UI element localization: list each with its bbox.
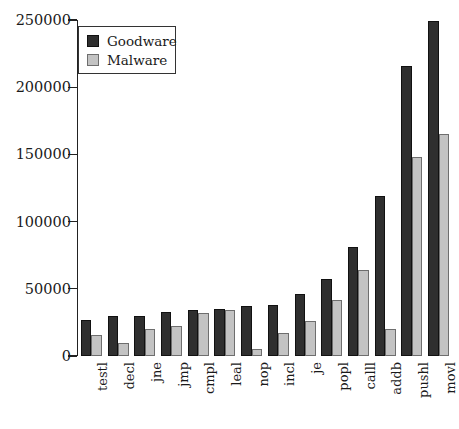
bar-malware bbox=[145, 329, 156, 356]
x-tick-label: movl bbox=[444, 362, 457, 394]
bar-malware bbox=[198, 313, 209, 356]
legend-label-malware: Malware bbox=[107, 53, 167, 67]
x-tick-label: testl bbox=[96, 362, 109, 391]
bar-group bbox=[399, 20, 426, 356]
x-tick-label: leal bbox=[230, 362, 243, 386]
bar-goodware bbox=[321, 279, 332, 356]
bar-goodware bbox=[214, 309, 225, 356]
bar-goodware bbox=[268, 305, 279, 356]
legend-item-goodware: Goodware bbox=[87, 32, 177, 50]
bar-goodware bbox=[348, 247, 359, 356]
bar-malware bbox=[439, 134, 450, 356]
bar-malware bbox=[412, 157, 423, 356]
bar-goodware bbox=[295, 294, 306, 356]
bar-group bbox=[212, 20, 239, 356]
y-tick-label: 250000 bbox=[16, 10, 71, 30]
bar-goodware bbox=[161, 312, 172, 356]
x-tick-label: je bbox=[310, 362, 323, 374]
x-tick-label: cmpl bbox=[203, 362, 216, 394]
bar-malware bbox=[118, 343, 129, 356]
bar-group bbox=[372, 20, 399, 356]
bar-goodware bbox=[108, 316, 119, 356]
bar-goodware bbox=[401, 66, 412, 356]
y-tick-label: 100000 bbox=[16, 212, 71, 232]
bar-malware bbox=[385, 329, 396, 356]
x-tick-label: addb bbox=[390, 362, 403, 395]
bar-group bbox=[318, 20, 345, 356]
y-tick-label: 0 bbox=[62, 346, 71, 366]
bar-group bbox=[292, 20, 319, 356]
bar-goodware bbox=[81, 320, 92, 356]
bar-malware bbox=[332, 300, 343, 356]
bar-goodware bbox=[428, 21, 439, 356]
light-square-swatch bbox=[87, 54, 99, 66]
y-tick-label: 150000 bbox=[16, 144, 71, 164]
bar-group bbox=[265, 20, 292, 356]
x-tick-label: jmp bbox=[177, 362, 190, 387]
legend-item-malware: Malware bbox=[87, 51, 167, 69]
bar-goodware bbox=[241, 306, 252, 356]
bar-malware bbox=[91, 335, 102, 357]
bar-group bbox=[425, 20, 452, 356]
bar-group bbox=[238, 20, 265, 356]
x-tick-label: nop bbox=[257, 362, 270, 387]
bar-malware bbox=[305, 321, 316, 356]
bar-malware bbox=[225, 310, 236, 356]
x-tick-label: calll bbox=[364, 362, 377, 390]
bar-chart: 050000100000150000200000250000 testldecl… bbox=[0, 0, 459, 429]
bar-goodware bbox=[134, 316, 145, 356]
legend: Goodware Malware bbox=[78, 26, 176, 74]
bar-malware bbox=[278, 333, 289, 356]
dark-square-swatch bbox=[87, 35, 99, 47]
bar-malware bbox=[171, 326, 182, 356]
x-tick-label: incl bbox=[283, 362, 296, 386]
y-tick-label: 200000 bbox=[16, 77, 71, 97]
bar-group bbox=[345, 20, 372, 356]
legend-label-goodware: Goodware bbox=[107, 34, 177, 48]
x-tick-label: decl bbox=[123, 362, 136, 389]
bar-malware bbox=[252, 349, 263, 356]
bar-group bbox=[185, 20, 212, 356]
x-tick-label: popl bbox=[337, 362, 350, 391]
y-tick-label: 50000 bbox=[25, 279, 71, 299]
bar-malware bbox=[358, 270, 369, 356]
x-tick-label: pushl bbox=[417, 362, 430, 398]
bar-goodware bbox=[375, 196, 386, 356]
x-tick-label: jne bbox=[150, 362, 163, 382]
bar-goodware bbox=[188, 310, 199, 356]
